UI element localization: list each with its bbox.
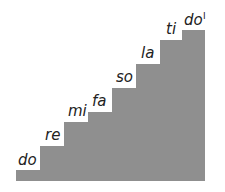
label-mi: mi bbox=[68, 104, 87, 119]
label-do: do bbox=[18, 153, 37, 168]
label-fa: fa bbox=[92, 94, 106, 109]
label-ti: ti bbox=[166, 22, 176, 37]
step-7 bbox=[160, 40, 183, 181]
step-6 bbox=[136, 64, 161, 181]
step-4 bbox=[88, 112, 113, 181]
label-re: re bbox=[45, 128, 60, 143]
step-3 bbox=[64, 122, 89, 181]
step-2 bbox=[40, 146, 65, 181]
step-8 bbox=[182, 30, 205, 181]
label-so: so bbox=[116, 70, 133, 85]
label-high-do-superscript: I bbox=[203, 11, 206, 21]
step-5 bbox=[112, 88, 137, 181]
label-la: la bbox=[141, 46, 154, 61]
label-high-do: do bbox=[184, 13, 203, 28]
step-1 bbox=[16, 170, 41, 181]
